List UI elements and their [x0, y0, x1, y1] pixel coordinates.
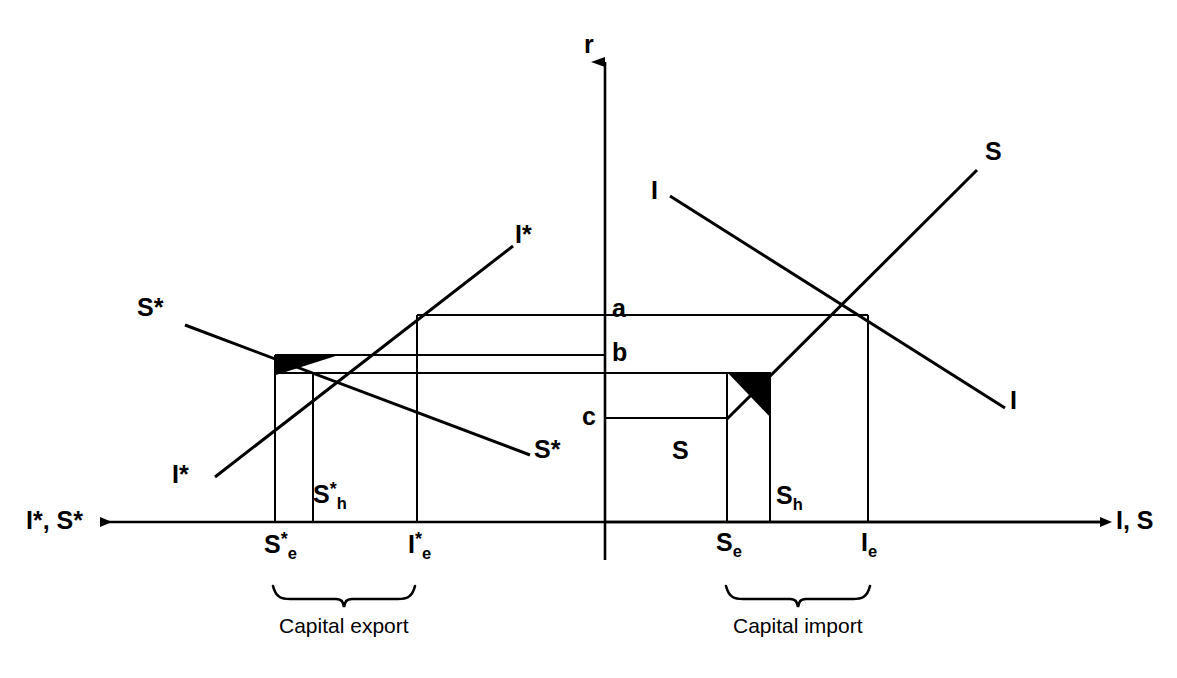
level-label-c: c	[582, 404, 596, 429]
tick-base: I	[861, 528, 868, 556]
tick-base: S	[313, 480, 330, 508]
tick-base: S	[776, 481, 793, 509]
curve-label-home-saving-top: S	[985, 139, 1002, 164]
tick-superscript: *	[415, 529, 422, 549]
tick-label-home-saving-equilibrium: Se	[716, 530, 742, 559]
axis-label-foreign: I*, S*	[26, 508, 83, 533]
tick-label-home-saving-home: Sh	[776, 483, 803, 512]
curve-label-home-investment-left: I	[651, 178, 658, 203]
curve-label-foreign-saving-left: S*	[137, 295, 163, 320]
tick-base: S	[716, 528, 733, 556]
tick-subscript: e	[868, 542, 877, 560]
home-saving-curve	[727, 170, 977, 419]
level-label-b: b	[612, 340, 627, 365]
tick-label-foreign-saving-home: S*h	[313, 480, 347, 511]
tick-subscript: h	[793, 495, 803, 513]
axis-label-r: r	[584, 32, 594, 57]
tick-label-foreign-investment-equilibrium: I*e	[408, 530, 431, 561]
tick-base: S	[264, 530, 281, 558]
curve-label-foreign-saving-right: S*	[534, 437, 560, 462]
tick-superscript: *	[281, 529, 288, 549]
tick-label-foreign-saving-equilibrium: S*e	[264, 530, 297, 561]
home-investment-curve	[670, 196, 1005, 408]
caption-capital-export: Capital export	[279, 615, 409, 636]
axis-label-home: I, S	[1116, 508, 1154, 533]
tick-subscript: e	[288, 544, 297, 562]
caption-capital-import: Capital import	[733, 615, 863, 636]
curve-label-home-investment-right: I	[1010, 388, 1017, 413]
level-label-a: a	[612, 296, 626, 321]
tick-superscript: *	[330, 479, 337, 499]
foreign-investment-curve	[215, 246, 513, 477]
left-level-lines	[275, 315, 605, 373]
tick-subscript: e	[422, 544, 431, 562]
figure-canvas: r I*, S* I, S a b c S* S* I* I* I I S S …	[0, 0, 1177, 678]
curve-label-home-saving-corner: S	[672, 438, 689, 463]
tick-subscript: h	[337, 494, 347, 512]
right-level-lines	[605, 315, 868, 418]
tick-subscript: e	[733, 542, 742, 560]
tick-label-home-investment-equilibrium: Ie	[861, 530, 877, 559]
curve-label-foreign-investment-right: I*	[515, 222, 532, 247]
foreign-saving-curve	[185, 325, 530, 455]
diagram-svg	[0, 0, 1177, 678]
tick-base: I	[408, 530, 415, 558]
curve-label-foreign-investment-left: I*	[172, 462, 189, 487]
capital-import-brace	[726, 586, 870, 607]
capital-export-brace	[273, 586, 415, 607]
